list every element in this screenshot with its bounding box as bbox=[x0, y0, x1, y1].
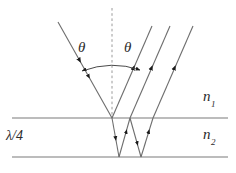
film-segment-3-down bbox=[130, 118, 141, 157]
angle-arc bbox=[82, 65, 140, 71]
thin-film-interference-figure: θ θ n1 n2 λ/4 bbox=[0, 0, 236, 173]
reflected-ray-2-line bbox=[130, 26, 170, 118]
refractive-index-n2-base: n bbox=[203, 126, 211, 142]
reflected-ray-1 bbox=[112, 26, 152, 118]
film-segment-1-down bbox=[112, 118, 119, 157]
reflected-ray-3-line bbox=[153, 26, 193, 118]
angle-arc-path bbox=[82, 65, 140, 71]
ray-diagram-canvas bbox=[0, 0, 236, 173]
film-segment-4-up bbox=[141, 118, 153, 157]
reflected-ray-3 bbox=[153, 26, 193, 118]
refractive-index-n2-label: n2 bbox=[203, 127, 215, 145]
interface-lines bbox=[12, 118, 228, 157]
film-internal-ray-path bbox=[112, 118, 153, 157]
refractive-index-n1-subscript: 1 bbox=[211, 99, 216, 109]
refractive-index-n1-base: n bbox=[203, 88, 211, 104]
refractive-index-n2-subscript: 2 bbox=[211, 137, 216, 147]
refractive-index-n1-label: n1 bbox=[203, 89, 215, 107]
film-segment-2-up bbox=[119, 118, 130, 157]
angle-of-incidence-label: θ bbox=[78, 40, 85, 55]
angle-of-reflection-label: θ bbox=[124, 40, 131, 55]
reflected-ray-2 bbox=[130, 26, 170, 118]
reflected-ray-1-line bbox=[112, 26, 152, 118]
film-thickness-label: λ/4 bbox=[6, 129, 23, 143]
